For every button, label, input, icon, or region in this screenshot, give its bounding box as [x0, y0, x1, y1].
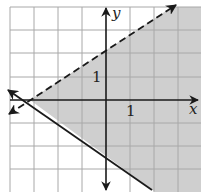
x-axis-label: x [189, 100, 198, 118]
y-axis-label: y [111, 4, 121, 22]
inequality-graph: y x 1 1 [0, 0, 201, 192]
y-tick-label: 1 [92, 68, 102, 86]
x-tick-label: 1 [126, 102, 136, 120]
